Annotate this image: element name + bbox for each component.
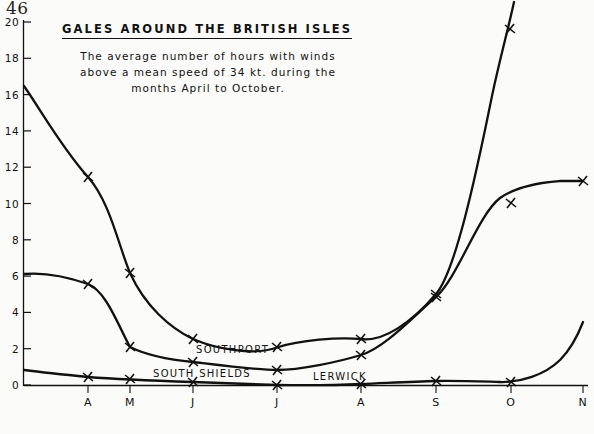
series-label-lerwick: LERWICK [313,371,367,382]
x-axis-labels: A M J J A S O N [84,396,587,409]
x-tick-label: A [357,396,365,409]
y-tick-label: 18 [5,52,19,64]
x-tick-label: O [506,396,515,409]
y-tick-label: 14 [5,125,19,137]
y-tick-label: 6 [12,270,19,282]
y-axis-labels: 20 18 16 14 12 10 8 6 4 2 0 [5,16,19,391]
x-tick-label: S [432,396,440,409]
y-tick-label: 2 [12,343,19,355]
x-axis-ticks [88,386,583,394]
y-axis-ticks [24,22,32,385]
x-tick-label: M [125,396,135,409]
x-tick-label: A [84,396,92,409]
series-label-southport: SOUTHPORT [196,344,269,355]
series-label-south-shields: SOUTH SHIELDS [153,368,251,379]
y-tick-label: 10 [5,198,19,210]
series-markers-lerwick [83,176,588,375]
x-tick-label: J [190,396,195,409]
series-line-southport [24,2,514,351]
y-tick-label: 16 [5,89,19,101]
chart-page: 46 GALES AROUND THE BRITISH ISLES The av… [0,0,594,434]
y-tick-label: 0 [12,379,19,391]
series-line-south-shields [24,322,583,385]
x-tick-label: N [579,396,588,409]
y-tick-label: 8 [12,234,19,246]
line-chart: 20 18 16 14 12 10 8 6 4 2 0 A M J [0,0,594,434]
x-tick-label: J [274,396,279,409]
y-tick-label: 12 [5,161,19,173]
y-tick-label: 20 [5,16,19,28]
y-tick-label: 4 [12,306,19,318]
